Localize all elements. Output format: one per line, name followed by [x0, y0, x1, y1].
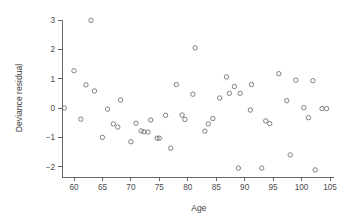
data-point: [84, 83, 88, 87]
data-point: [149, 118, 153, 122]
data-point: [105, 107, 109, 111]
data-point: [217, 96, 221, 100]
x-tick-label: 85: [212, 183, 222, 192]
data-point: [288, 153, 292, 157]
data-point: [249, 82, 253, 86]
x-axis: 6065707580859095100105: [62, 167, 337, 192]
data-point: [302, 106, 306, 110]
data-point: [180, 113, 184, 117]
data-point: [118, 98, 122, 102]
scatter-chart: −2−10123 6065707580859095100105 Age Devi…: [0, 0, 353, 221]
data-point: [211, 116, 215, 120]
x-tick-label: 70: [126, 183, 136, 192]
x-tick-label: 65: [98, 183, 108, 192]
data-point: [238, 91, 242, 95]
data-point: [203, 129, 207, 133]
data-point: [248, 108, 252, 112]
data-point: [134, 121, 138, 125]
y-tick-label: 2: [50, 45, 55, 54]
data-point: [116, 125, 120, 129]
data-point: [264, 119, 268, 123]
data-point: [285, 98, 289, 102]
data-point: [183, 117, 187, 121]
x-tick-label: 105: [323, 183, 337, 192]
x-axis-title: Age: [191, 203, 207, 213]
x-tick-label: 100: [295, 183, 309, 192]
data-points: [62, 18, 329, 172]
x-tick-label: 75: [155, 183, 165, 192]
data-point: [324, 106, 328, 110]
y-axis-title: Deviance residual: [14, 64, 24, 132]
plot-area: −2−10123 6065707580859095100105 Age Devi…: [0, 0, 353, 221]
data-point: [227, 91, 231, 95]
data-point: [193, 46, 197, 50]
data-point: [313, 168, 317, 172]
data-point: [100, 135, 104, 139]
data-point: [89, 18, 93, 22]
data-point: [260, 166, 264, 170]
data-point: [111, 122, 115, 126]
data-point: [320, 106, 324, 110]
data-point: [129, 140, 133, 144]
data-point: [174, 82, 178, 86]
data-point: [224, 75, 228, 79]
data-point: [139, 129, 143, 133]
y-tick-label: −2: [46, 163, 56, 172]
data-point: [79, 117, 83, 121]
data-point: [169, 146, 173, 150]
data-point: [206, 122, 210, 126]
x-tick-label: 60: [69, 183, 79, 192]
x-tick-label: 95: [269, 183, 279, 192]
data-point: [294, 78, 298, 82]
y-tick-label: 1: [50, 75, 55, 84]
data-point: [191, 92, 195, 96]
y-axis: −2−10123: [46, 16, 62, 172]
y-tick-label: −1: [46, 133, 56, 142]
data-point: [163, 113, 167, 117]
data-point: [232, 84, 236, 88]
data-point: [62, 106, 66, 110]
data-point: [306, 115, 310, 119]
data-point: [277, 71, 281, 75]
y-tick-label: 3: [50, 16, 55, 25]
data-point: [236, 166, 240, 170]
data-point: [268, 121, 272, 125]
data-point: [311, 79, 315, 83]
x-tick-label: 90: [240, 183, 250, 192]
y-tick-label: 0: [50, 104, 55, 113]
data-point: [72, 69, 76, 73]
x-tick-label: 80: [183, 183, 193, 192]
data-point: [92, 89, 96, 93]
